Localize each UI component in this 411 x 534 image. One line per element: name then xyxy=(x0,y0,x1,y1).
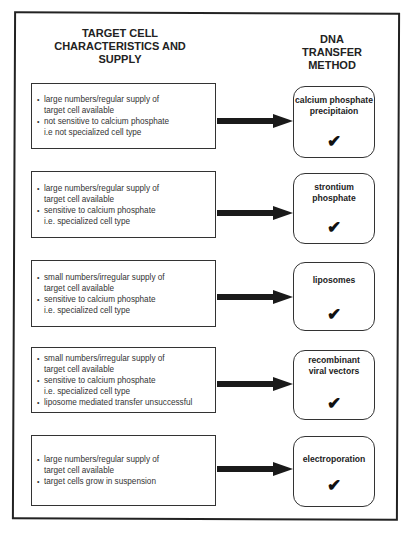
arrow-right-icon xyxy=(217,206,293,220)
checkmark-icon: ✔ xyxy=(294,395,374,412)
criterion: liposome mediated transfer unsuccessful xyxy=(36,397,211,408)
checkmark-icon: ✔ xyxy=(294,477,374,494)
criteria-box-3: small numbers/irregular supply oftarget … xyxy=(31,260,216,327)
header-line: TRANSFER xyxy=(288,46,376,59)
header-target-cell: TARGET CELL CHARACTERISTICS AND SUPPLY xyxy=(40,27,200,66)
header-line: TARGET CELL xyxy=(40,27,200,40)
header-line: DNA xyxy=(288,33,376,46)
header-line: SUPPLY xyxy=(40,53,200,66)
method-label: strontium phosphate xyxy=(294,174,374,204)
arrow-right-icon xyxy=(217,114,293,128)
criterion: small numbers/irregular supply oftarget … xyxy=(36,272,211,294)
method-label: calcium phosphate precipitaion xyxy=(294,87,374,117)
checkmark-icon: ✔ xyxy=(294,219,374,236)
criteria-box-4: small numbers/irregular supply oftarget … xyxy=(31,347,216,413)
method-label: recombinant viral vectors xyxy=(304,351,364,377)
criterion: sensitive to calcium phosphatei.e. speci… xyxy=(36,375,211,397)
method-box-recombinant-viral-vectors: recombinant viral vectors ✔ xyxy=(293,350,375,420)
checkmark-icon: ✔ xyxy=(294,133,374,150)
criterion: large numbers/regular supply oftarget ce… xyxy=(36,183,211,205)
method-label: electroporation xyxy=(294,437,374,465)
criterion: small numbers/irregular supply oftarget … xyxy=(36,353,211,375)
method-box-strontium-phosphate: strontium phosphate ✔ xyxy=(293,173,375,244)
header-line: CHARACTERISTICS AND xyxy=(40,40,200,53)
criterion: sensitive to calcium phosphatei.e. speci… xyxy=(36,205,211,227)
criterion: sensitive to calcium phosphatei.e. speci… xyxy=(36,294,211,316)
method-box-electroporation: electroporation ✔ xyxy=(293,436,375,507)
method-box-calcium-phosphate: calcium phosphate precipitaion ✔ xyxy=(293,86,375,158)
arrow-right-icon xyxy=(217,290,293,304)
method-label: liposomes xyxy=(294,263,374,286)
arrow-right-icon xyxy=(217,377,293,391)
checkmark-icon: ✔ xyxy=(294,306,374,323)
header-line: METHOD xyxy=(288,59,376,72)
method-box-liposomes: liposomes ✔ xyxy=(293,262,375,331)
criterion: target cells grow in suspension xyxy=(36,476,211,487)
criterion: large numbers/regular supply oftarget ce… xyxy=(36,94,211,116)
criteria-box-5: large numbers/regular supply oftarget ce… xyxy=(31,435,216,506)
criterion: large numbers/regular supply oftarget ce… xyxy=(36,454,211,476)
criteria-box-2: large numbers/regular supply oftarget ce… xyxy=(31,171,216,238)
criterion: not sensitive to calcium phosphatei.e no… xyxy=(36,116,211,138)
arrow-right-icon xyxy=(217,462,293,476)
criteria-box-1: large numbers/regular supply oftarget ce… xyxy=(31,83,216,149)
header-dna-transfer-method: DNA TRANSFER METHOD xyxy=(288,33,376,72)
